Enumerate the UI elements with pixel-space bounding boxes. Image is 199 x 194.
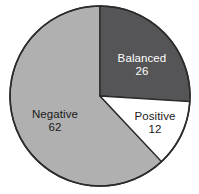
pie-chart-svg xyxy=(0,0,199,194)
pie-chart-figure: Balanced 26 Positive 12 Negative 62 xyxy=(0,0,199,194)
pie-slice-balanced[interactable] xyxy=(100,6,190,102)
